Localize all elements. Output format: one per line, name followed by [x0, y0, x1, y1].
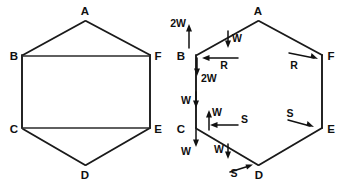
vertex-label-E-right: E: [327, 123, 335, 135]
vertex-label-E-left: E: [154, 123, 162, 135]
force-label-W-on-CD: W: [214, 143, 224, 155]
force-label-S-at-C: S: [241, 113, 248, 125]
force-vector-R-right-at-F: R: [289, 53, 318, 71]
vertex-label-B-right: B: [177, 50, 185, 62]
force-label-2W-up: 2W: [170, 17, 186, 29]
vertex-label-D-right: D: [255, 169, 263, 181]
force-member-F-A: [259, 21, 322, 55]
force-label-S-at-E: S: [286, 107, 293, 119]
force-label-W-below-C: W: [181, 145, 191, 157]
force-vector-S-upright-at-D: S: [230, 165, 253, 180]
force-label-S-at-D: S: [230, 167, 237, 179]
vertex-label-D-left: D: [81, 169, 89, 181]
vertex-label-C-right: C: [177, 123, 185, 135]
force-vector-W-down-on-CD: W: [214, 143, 231, 159]
force-label-W-on-BC: W: [181, 94, 191, 106]
vertex-label-F-left: F: [154, 50, 161, 62]
force-label-2W-down: 2W: [201, 72, 217, 84]
force-label-W-up-at-C: W: [212, 106, 222, 118]
force-vector-R-left-at-B: R: [202, 55, 238, 71]
force-vector-2W-up-above-B: 2W: [170, 17, 192, 48]
vertex-label-C-left: C: [10, 123, 18, 135]
force-vector-W-down-on-AB: W: [225, 31, 242, 48]
force-vector-S-right-at-E: S: [286, 107, 314, 127]
force-label-R-at-B: R: [220, 59, 228, 71]
vertex-label-B-left: B: [10, 50, 18, 62]
vertex-label-F-right: F: [327, 50, 334, 62]
force-diagram-svg: A B C D E F A B C D E F: [0, 0, 344, 182]
force-vector-2W-down-below-B: 2W: [194, 58, 217, 84]
force-member-D-E: [259, 128, 322, 165]
figure-root: A B C D E F A B C D E F: [0, 0, 344, 182]
panel-left-hexagonal-frame: A B C D E F: [10, 5, 162, 181]
vertex-label-A-left: A: [81, 5, 89, 17]
member-A-B: [23, 21, 85, 55]
panel-right-force-diagram: A B C D E F 2W W R: [170, 5, 335, 181]
member-D-E: [86, 128, 150, 165]
force-label-W-on-AB: W: [232, 32, 242, 44]
force-label-R-at-F: R: [290, 59, 298, 71]
member-C-D: [23, 129, 85, 165]
member-F-A: [86, 21, 150, 55]
force-vector-W-down-on-BC: W: [181, 92, 199, 108]
vertex-label-A-right: A: [254, 5, 262, 17]
